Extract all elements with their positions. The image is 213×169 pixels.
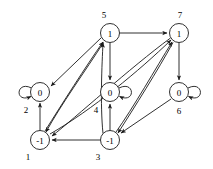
node-1-label: 1 — [26, 152, 31, 162]
node-2-label: 2 — [24, 105, 29, 115]
node-3-label: 3 — [96, 152, 101, 162]
node-6-label: 6 — [177, 106, 182, 116]
directed-graph-figure: -1 1 0 2 -1 3 0 4 1 5 0 6 1 7 — [0, 0, 213, 169]
node-5-label: 5 — [102, 10, 107, 20]
node-3-value: -1 — [106, 136, 114, 146]
self-loop-node-4 — [119, 86, 131, 98]
node-2-value: 0 — [38, 88, 43, 98]
self-loop-node-2 — [19, 86, 31, 98]
edge-3-to-7 — [116, 42, 172, 132]
node-1-value: -1 — [36, 136, 44, 146]
node-5-value: 1 — [108, 29, 113, 39]
graph-canvas: -1 1 0 2 -1 3 0 4 1 5 0 6 1 7 — [0, 0, 213, 169]
node-4-value: 0 — [108, 88, 113, 98]
node-7-value: 1 — [177, 29, 182, 39]
self-loop-node-6 — [188, 86, 200, 98]
node-4-label: 4 — [94, 105, 99, 115]
node-6-value: 0 — [177, 88, 182, 98]
edge-5-to-2 — [51, 38, 102, 87]
edge-7-to-3 — [118, 43, 173, 134]
node-7-label: 7 — [178, 10, 183, 20]
